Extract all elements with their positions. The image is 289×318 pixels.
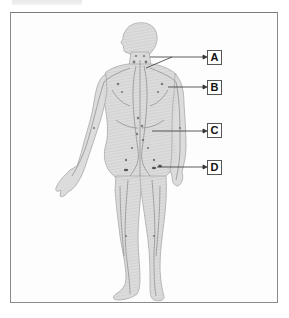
label-d: D <box>207 160 222 175</box>
body-shading <box>103 23 178 301</box>
label-c: C <box>207 123 222 138</box>
label-b: B <box>207 80 222 95</box>
label-a: A <box>207 50 222 65</box>
lymphatic-system-figure <box>0 0 289 318</box>
